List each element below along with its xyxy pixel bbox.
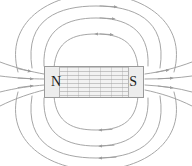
field-line-bottom-2-arrow xyxy=(100,145,114,146)
field-line-left-4 xyxy=(0,90,44,106)
field-line-right-3 xyxy=(145,85,192,92)
field-line-top-1 xyxy=(54,34,138,68)
field-line-right-2-arrow xyxy=(158,78,172,79)
south-pole-label: S xyxy=(129,75,137,89)
field-line-top-2 xyxy=(44,18,148,66)
field-line-left-1 xyxy=(0,62,44,74)
field-line-bottom-3-arrow xyxy=(100,157,116,158)
north-pole-label: N xyxy=(51,75,61,89)
magnetic-field-diagram: N S xyxy=(0,0,192,166)
field-line-right-1-arrow xyxy=(156,70,168,72)
field-line-bottom-4 xyxy=(15,92,176,166)
field-line-right-4 xyxy=(145,90,192,106)
field-line-right-1 xyxy=(145,62,192,74)
field-line-bottom-1 xyxy=(54,96,138,130)
field-line-left-1-arrow xyxy=(18,69,30,72)
field-line-top-3-arrow xyxy=(100,6,116,7)
field-line-left-3 xyxy=(0,85,44,92)
field-line-top-4 xyxy=(15,0,176,72)
field-line-right-3-arrow xyxy=(158,86,172,88)
field-line-top-2-arrow xyxy=(100,18,114,19)
field-line-bottom-2 xyxy=(44,98,148,146)
bar-magnet: N S xyxy=(44,66,144,98)
